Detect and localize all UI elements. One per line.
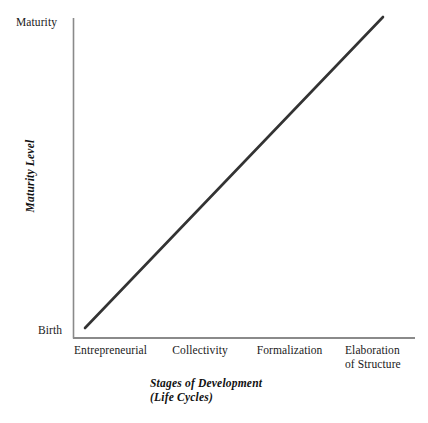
x-tick-label-formalization: Formalization — [257, 344, 339, 358]
life-cycle-chart: Maturity Birth Maturity Level Entreprene… — [0, 0, 428, 423]
x-tick-label-collectivity: Collectivity — [172, 344, 250, 358]
x-tick-label-entrepreneurial: Entrepreneurial — [74, 344, 166, 358]
x-axis-title: Stages of Development (Life Cycles) — [150, 376, 310, 404]
y-axis-title: Maturity Level — [24, 121, 36, 231]
x-tick-label-elaboration-of-structure: Elaboration of Structure — [345, 344, 419, 371]
y-axis-top-label: Maturity — [16, 16, 57, 28]
y-axis-bottom-label: Birth — [38, 324, 62, 336]
x-axis-tick-labels: Entrepreneurial Collectivity Formalizati… — [73, 344, 419, 371]
